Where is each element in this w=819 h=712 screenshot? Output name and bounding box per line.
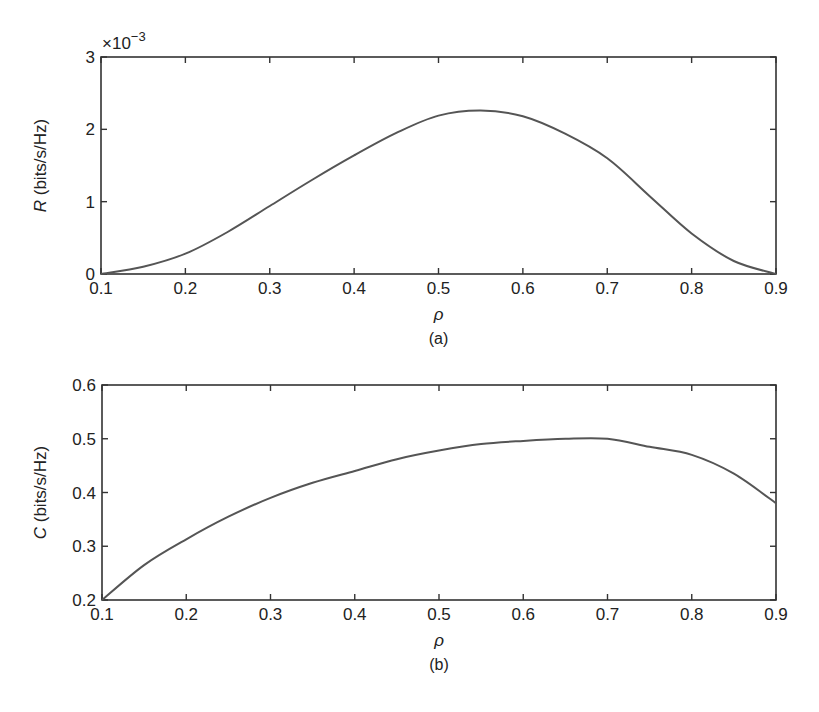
x-tick-label: 0.4 (343, 605, 367, 624)
data-line-r (101, 110, 776, 274)
y-tick-label: 0.5 (72, 430, 96, 449)
x-tick-label: 0.4 (342, 279, 366, 298)
y-tick-label: 3 (86, 48, 95, 67)
panel-label: (a) (429, 330, 449, 347)
panel-label: (b) (429, 656, 449, 673)
data-line-c (102, 438, 776, 600)
x-tick-label: 0.8 (680, 605, 704, 624)
x-tick-label: 0.8 (680, 279, 704, 298)
x-tick-label: 0.2 (174, 279, 198, 298)
plot-frame (102, 385, 776, 600)
y-axis-multiplier: ×10−3 (102, 29, 146, 53)
y-axis-unit: (bits/s/Hz) (31, 446, 50, 527)
y-axis-unit: (bits/s/Hz) (31, 119, 50, 200)
x-tick-label: 0.7 (595, 279, 619, 298)
y-tick-label: 0.6 (72, 376, 96, 395)
y-tick-label: 0.4 (72, 484, 96, 503)
plot-frame (101, 57, 776, 274)
x-tick-label: 0.2 (174, 605, 198, 624)
x-axis-label: ρ (433, 305, 444, 324)
x-tick-label: 0.6 (511, 605, 535, 624)
x-tick-label: 0.9 (764, 279, 788, 298)
y-tick-label: 0.2 (72, 591, 96, 610)
chart-panel-b: 0.10.20.30.40.50.60.70.80.90.20.30.40.50… (31, 376, 788, 673)
multiplier-exponent: −3 (131, 29, 146, 44)
x-tick-label: 0.5 (427, 279, 451, 298)
x-tick-label: 0.3 (258, 279, 282, 298)
y-tick-label: 1 (86, 193, 95, 212)
x-tick-label: 0.9 (764, 605, 788, 624)
x-axis-label: ρ (433, 631, 444, 650)
chart-panel-a: 0.10.20.30.40.50.60.70.80.90123ρ(a)R (bi… (31, 29, 788, 347)
figure: 0.10.20.30.40.50.60.70.80.90123ρ(a)R (bi… (0, 0, 819, 712)
multiplier-base: ×10 (102, 34, 131, 53)
y-axis-symbol: R (31, 200, 50, 212)
x-tick-label: 0.5 (427, 605, 451, 624)
y-axis-label: R (bits/s/Hz) (31, 119, 50, 213)
y-tick-label: 0.3 (72, 537, 96, 556)
y-tick-label: 2 (86, 120, 95, 139)
x-tick-label: 0.6 (511, 279, 535, 298)
y-axis-label: C (bits/s/Hz) (31, 446, 50, 540)
y-axis-symbol: C (31, 526, 50, 539)
y-tick-label: 0 (86, 265, 95, 284)
x-tick-label: 0.3 (259, 605, 283, 624)
x-tick-label: 0.7 (596, 605, 620, 624)
